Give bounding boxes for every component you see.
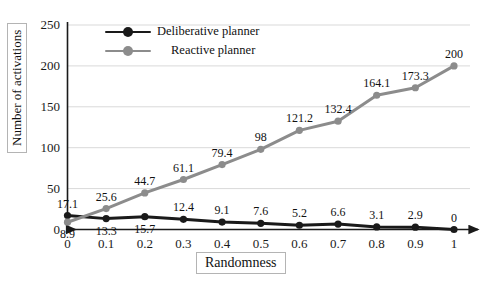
data-point-marker bbox=[180, 176, 187, 183]
data-point-marker bbox=[450, 226, 457, 233]
data-point-label: 44.7 bbox=[125, 175, 165, 187]
x-tick-label: 0.6 bbox=[282, 237, 316, 250]
data-point-label: 173.3 bbox=[395, 70, 435, 82]
y-axis-title: Number of activations bbox=[7, 23, 27, 153]
x-tick-label: 0.1 bbox=[89, 237, 123, 250]
data-point-label: 12.4 bbox=[163, 201, 203, 213]
y-tick-label: 100 bbox=[26, 141, 60, 154]
data-point-marker bbox=[141, 189, 148, 196]
legend-marker-deliberative-icon bbox=[105, 27, 151, 37]
y-tick-label: 200 bbox=[26, 59, 60, 72]
x-tick-label: 1 bbox=[437, 237, 471, 250]
data-point-marker bbox=[412, 224, 419, 231]
data-point-label: 200 bbox=[434, 48, 474, 60]
y-axis-title-wrapper: Number of activations bbox=[7, 31, 27, 153]
data-point-marker bbox=[296, 222, 303, 229]
x-axis-title: Randomness bbox=[196, 252, 286, 274]
data-point-label: 15.7 bbox=[125, 223, 165, 235]
data-point-marker bbox=[296, 127, 303, 134]
x-tick-label: 0.5 bbox=[244, 237, 278, 250]
data-point-label: 0 bbox=[434, 212, 474, 224]
data-point-label: 2.9 bbox=[395, 209, 435, 221]
data-point-marker bbox=[257, 146, 264, 153]
data-point-label: 61.1 bbox=[163, 162, 203, 174]
legend-item-reactive-planner: Reactive planner bbox=[105, 41, 259, 60]
data-point-label: 9.1 bbox=[202, 204, 242, 216]
data-point-marker bbox=[103, 215, 110, 222]
x-tick-label: 0.4 bbox=[205, 237, 239, 250]
data-point-label: 98 bbox=[241, 131, 281, 143]
data-point-marker bbox=[334, 118, 341, 125]
x-tick-label: 0.7 bbox=[321, 237, 355, 250]
data-point-marker bbox=[219, 218, 226, 225]
data-point-marker bbox=[412, 84, 419, 91]
data-point-marker bbox=[219, 161, 226, 168]
data-point-marker bbox=[64, 219, 71, 226]
x-tick-label: 0.9 bbox=[398, 237, 432, 250]
data-point-marker bbox=[64, 212, 71, 219]
data-point-label: 6.6 bbox=[318, 206, 358, 218]
line-chart: 050100150200250 00.10.20.30.40.50.60.70.… bbox=[0, 0, 494, 287]
data-point-label: 5.2 bbox=[279, 207, 319, 219]
data-point-marker bbox=[450, 62, 457, 69]
x-tick-label: 0.3 bbox=[166, 237, 200, 250]
y-tick-label: 50 bbox=[26, 182, 60, 195]
data-point-label: 79.4 bbox=[202, 147, 242, 159]
legend-item-deliberative-planner: Deliberative planner bbox=[105, 22, 259, 41]
data-point-label: 25.6 bbox=[86, 191, 126, 203]
data-point-marker bbox=[373, 92, 380, 99]
data-point-marker bbox=[103, 205, 110, 212]
y-tick-label: 250 bbox=[26, 18, 60, 31]
data-point-label: 3.1 bbox=[357, 209, 397, 221]
legend-label-deliberative: Deliberative planner bbox=[157, 24, 259, 39]
data-point-label: 17.1 bbox=[48, 198, 88, 210]
data-point-marker bbox=[257, 220, 264, 227]
legend-marker-reactive-icon bbox=[105, 46, 151, 56]
data-point-label: 132.4 bbox=[318, 103, 358, 115]
data-point-marker bbox=[373, 223, 380, 230]
data-point-label: 13.3 bbox=[86, 225, 126, 237]
x-tick-label: 0.2 bbox=[128, 237, 162, 250]
chart-legend: Deliberative planner Reactive planner bbox=[105, 22, 259, 60]
data-point-label: 8.9 bbox=[48, 228, 88, 240]
data-point-marker bbox=[180, 216, 187, 223]
data-point-label: 164.1 bbox=[357, 77, 397, 89]
data-point-label: 121.2 bbox=[279, 112, 319, 124]
data-point-marker bbox=[141, 213, 148, 220]
y-tick-label: 150 bbox=[26, 100, 60, 113]
data-point-label: 7.6 bbox=[241, 205, 281, 217]
data-point-marker bbox=[334, 221, 341, 228]
x-tick-label: 0.8 bbox=[360, 237, 394, 250]
legend-label-reactive: Reactive planner bbox=[171, 43, 255, 58]
